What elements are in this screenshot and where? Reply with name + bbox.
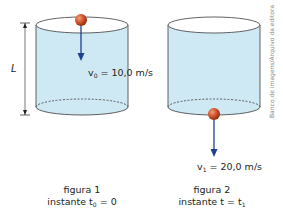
caption-instant: instante t = t1	[157, 196, 267, 211]
arrowhead-icon	[211, 149, 218, 157]
caption-prefix: instante t = t	[178, 196, 241, 207]
image-credit: Banco de imagens/Arquivo da editora	[268, 5, 275, 118]
caption-title: figura 1	[27, 184, 137, 196]
caption-figure-2: figura 2 instante t = t1	[157, 184, 267, 211]
caption-subscript: 1	[242, 201, 246, 208]
cylinder-1	[36, 17, 128, 115]
caption-suffix: = 0	[97, 196, 117, 207]
ball-1	[75, 14, 87, 26]
velocity-label-1: v0 = 10,0 m/s	[88, 67, 153, 81]
caption-instant: instante t0 = 0	[27, 196, 137, 211]
length-label: L	[11, 63, 17, 74]
velocity-value: = 10,0 m/s	[97, 67, 153, 78]
velocity-label-2: v1 = 20,0 m/s	[197, 161, 262, 175]
cylinder-2	[168, 17, 260, 115]
length-dimension	[20, 23, 30, 115]
caption-figure-1: figura 1 instante t0 = 0	[27, 184, 137, 211]
caption-prefix: instante t	[47, 196, 93, 207]
ball-2	[208, 108, 220, 120]
caption-title: figura 2	[157, 184, 267, 196]
velocity-value: = 20,0 m/s	[206, 161, 262, 172]
